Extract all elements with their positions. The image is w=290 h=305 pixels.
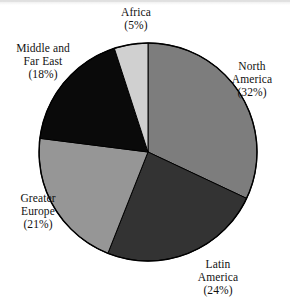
slice-label-greater-europe: Greater Europe (21%)	[2, 192, 74, 232]
slice-label-north-america-percent: (32%)	[216, 86, 288, 99]
slice-label-middle-and-far-east-percent: (18%)	[0, 68, 86, 81]
slice-label-africa-name: Africa	[96, 6, 176, 19]
slice-label-latin-america: Latin America (24%)	[182, 258, 254, 298]
slice-label-north-america-line1: North	[216, 60, 288, 73]
slice-label-middle-and-far-east-line1: Middle and	[0, 42, 86, 55]
slice-label-middle-and-far-east-line2: Far East	[0, 55, 86, 68]
slice-label-latin-america-line2: America	[182, 271, 254, 284]
slice-label-north-america-line2: America	[216, 73, 288, 86]
pie-chart-figure: Africa (5%) North America (32%) Latin Am…	[0, 0, 290, 305]
slice-label-north-america: North America (32%)	[216, 60, 288, 100]
slice-label-africa-percent: (5%)	[96, 19, 176, 32]
slice-label-latin-america-percent: (24%)	[182, 284, 254, 297]
slice-label-middle-and-far-east: Middle and Far East (18%)	[0, 42, 86, 82]
slice-label-latin-america-line1: Latin	[182, 258, 254, 271]
slice-label-greater-europe-line2: Europe	[2, 205, 74, 218]
slice-label-greater-europe-line1: Greater	[2, 192, 74, 205]
slice-label-africa: Africa (5%)	[96, 6, 176, 32]
slice-label-greater-europe-percent: (21%)	[2, 218, 74, 231]
